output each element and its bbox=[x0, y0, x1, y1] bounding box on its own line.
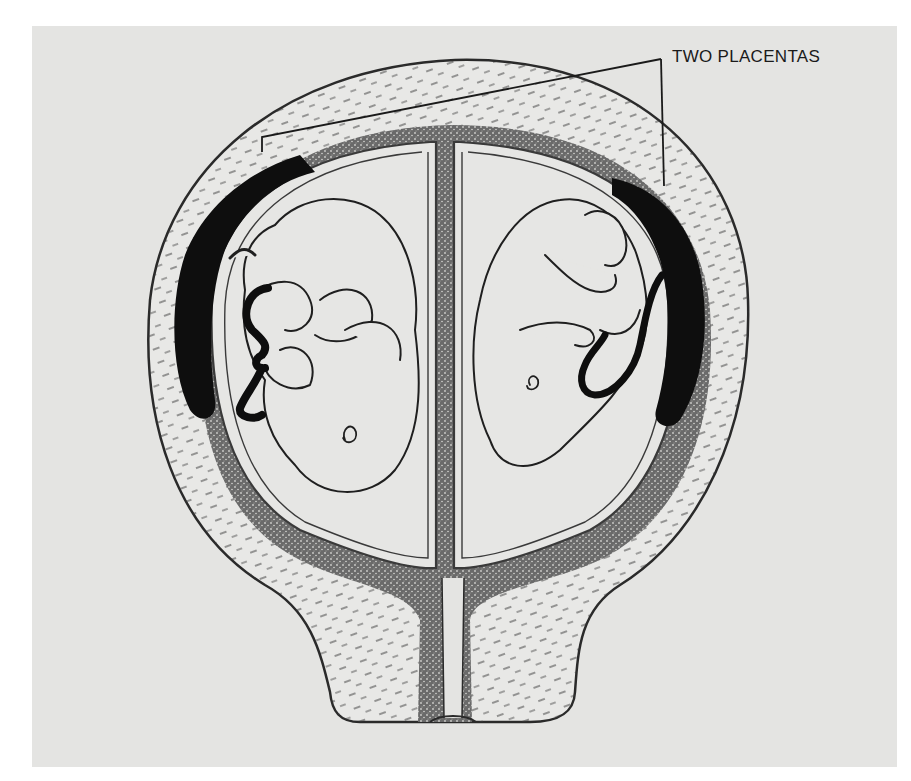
two-placentas-label: TWO PLACENTAS bbox=[672, 47, 820, 67]
cervical-canal bbox=[442, 578, 464, 718]
uterus-illustration bbox=[0, 0, 911, 781]
